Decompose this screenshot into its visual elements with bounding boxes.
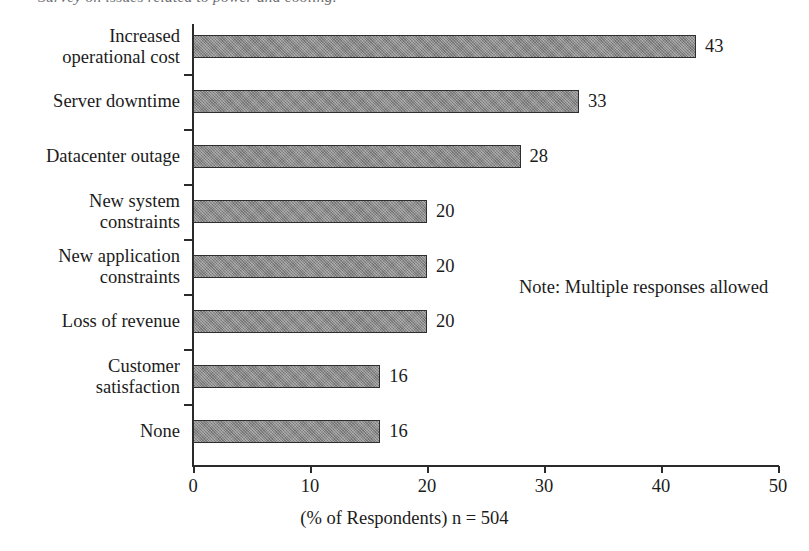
category-label: Server downtime: [0, 91, 180, 112]
y-axis-tick: [184, 349, 193, 351]
x-axis-line: [192, 465, 779, 467]
bar: [193, 365, 380, 388]
x-axis-tick-label: 10: [290, 476, 330, 497]
x-axis-tick-label: 30: [524, 476, 564, 497]
bar: [193, 90, 579, 113]
x-axis-tick: [310, 466, 312, 473]
y-axis-tick: [184, 74, 193, 76]
bar: [193, 145, 521, 168]
category-label: Customer satisfaction: [0, 356, 180, 398]
x-axis-tick: [661, 466, 663, 473]
category-label: New system constraints: [0, 191, 180, 233]
y-axis-tick: [184, 239, 193, 241]
category-label: Datacenter outage: [0, 146, 180, 167]
y-axis-tick: [184, 294, 193, 296]
x-axis-tick-label: 50: [758, 476, 798, 497]
bar-value-label: 33: [588, 90, 607, 113]
x-axis-title: (% of Respondents) n = 504: [0, 508, 809, 529]
bar: [193, 200, 427, 223]
category-label: None: [0, 421, 180, 442]
bar-value-label: 16: [389, 420, 408, 443]
bar: [193, 310, 427, 333]
bar: [193, 255, 427, 278]
bar-value-label: 28: [530, 145, 549, 168]
y-axis-tick: [184, 129, 193, 131]
bar-value-label: 20: [436, 200, 455, 223]
x-axis-tick: [778, 466, 780, 473]
bar-value-label: 20: [436, 310, 455, 333]
category-label: Loss of revenue: [0, 311, 180, 332]
chart-annotation-note: Note: Multiple responses allowed: [519, 277, 768, 298]
x-axis-tick: [544, 466, 546, 473]
x-axis-tick-label: 40: [641, 476, 681, 497]
category-label: Increased operational cost: [0, 26, 180, 68]
bar-value-label: 43: [705, 35, 724, 58]
x-axis-tick: [193, 466, 195, 473]
horizontal-bar-chart: Increased operational costServer downtim…: [0, 0, 809, 551]
bar-value-label: 16: [389, 365, 408, 388]
y-axis-tick: [184, 404, 193, 406]
bar: [193, 420, 380, 443]
x-axis-tick: [427, 466, 429, 473]
x-axis-tick-label: 20: [407, 476, 447, 497]
category-label: New application constraints: [0, 246, 180, 288]
y-axis-tick: [184, 184, 193, 186]
x-axis-tick-label: 0: [173, 476, 213, 497]
bar: [193, 35, 696, 58]
bar-value-label: 20: [436, 255, 455, 278]
